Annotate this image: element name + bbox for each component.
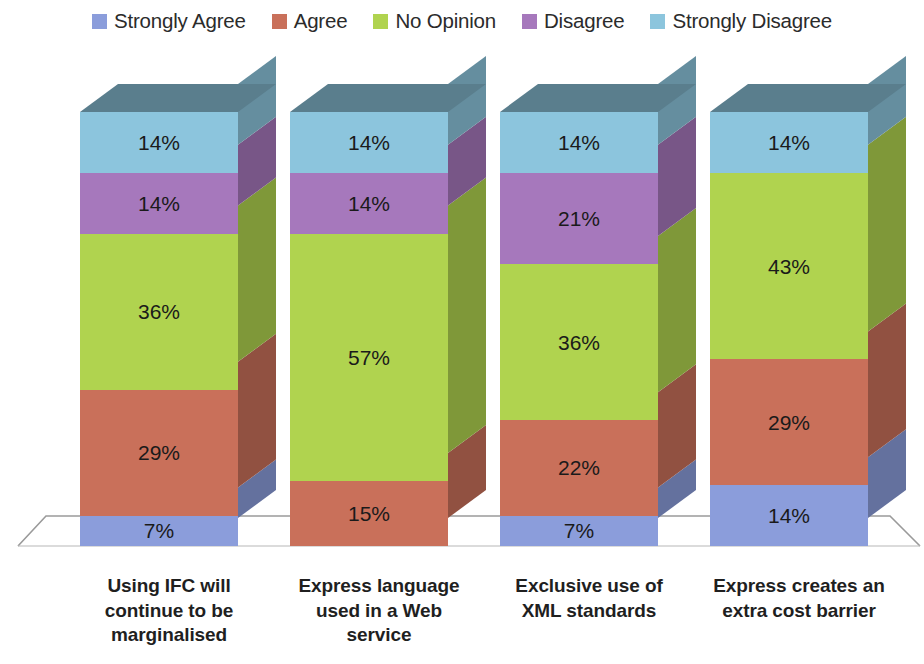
bar-segment-value-label: 14%	[348, 132, 390, 153]
bar-column[interactable]: 7%29%36%14%14%	[80, 112, 238, 546]
category-label-line: XML standards	[486, 599, 692, 624]
bar-segment-value-label: 29%	[138, 442, 180, 463]
category-label: Using IFC willcontinue to bemarginalised	[66, 574, 272, 648]
legend-item-label: Strongly Agree	[114, 11, 246, 32]
bar-segment-value-label: 7%	[144, 520, 174, 541]
bar-segment[interactable]: 14%	[290, 173, 448, 234]
bar-segment[interactable]: 14%	[500, 112, 658, 173]
bar-segment-value-label: 7%	[564, 520, 594, 541]
bar-segment-value-label: 43%	[768, 256, 810, 277]
category-label-line: service	[276, 623, 482, 648]
bar-segment-value-label: 14%	[348, 193, 390, 214]
category-label-line: Using IFC will	[66, 574, 272, 599]
bar-segment[interactable]: 43%	[710, 173, 868, 360]
legend-item-label: Disagree	[544, 11, 624, 32]
bar-segment[interactable]: 14%	[80, 112, 238, 173]
bar-side-face	[448, 84, 486, 546]
bar-front-face: 7%22%36%21%14%	[500, 112, 658, 546]
bar-column[interactable]: 15%57%14%14%	[290, 112, 448, 546]
bar-segment[interactable]: 15%	[290, 481, 448, 546]
bar-segment[interactable]: 7%	[80, 516, 238, 546]
bar-front-face: 14%29%43%14%	[710, 112, 868, 546]
bar-side-segment	[238, 178, 276, 362]
bar-segment[interactable]: 7%	[500, 516, 658, 546]
legend-item[interactable]: Disagree	[522, 11, 624, 32]
bar-side-face	[868, 84, 906, 546]
bar-segment-value-label: 14%	[138, 132, 180, 153]
bar-side-segment	[658, 208, 696, 392]
bars-layer: 7%29%36%14%14%15%57%14%14%7%22%36%21%14%…	[0, 46, 924, 560]
bar-segment[interactable]: 14%	[290, 112, 448, 173]
bar-segment[interactable]: 29%	[80, 390, 238, 516]
bar-top-face	[80, 84, 276, 112]
bar-segment[interactable]: 29%	[710, 359, 868, 485]
bar-segment[interactable]: 22%	[500, 420, 658, 515]
category-label: Express creates anextra cost barrier	[696, 574, 902, 623]
legend-item-label: No Opinion	[395, 11, 496, 32]
category-axis-labels: Using IFC willcontinue to bemarginalised…	[0, 566, 924, 664]
legend-swatch-icon	[522, 14, 537, 29]
bar-segment[interactable]: 21%	[500, 173, 658, 264]
legend-item-label: Strongly Disagree	[672, 11, 832, 32]
legend-item[interactable]: Strongly Agree	[92, 11, 246, 32]
bar-segment-value-label: 57%	[348, 347, 390, 368]
bar-segment[interactable]: 14%	[710, 485, 868, 546]
legend-item[interactable]: No Opinion	[373, 11, 496, 32]
bar-segment-value-label: 15%	[348, 503, 390, 524]
bar-top-face	[500, 84, 696, 112]
legend-swatch-icon	[92, 14, 107, 29]
bar-top-face	[290, 84, 486, 112]
legend-swatch-icon	[373, 14, 388, 29]
bar-side-segment	[868, 117, 906, 332]
bar-segment-value-label: 29%	[768, 412, 810, 433]
category-label-line: continue to be	[66, 599, 272, 624]
bar-column[interactable]: 14%29%43%14%	[710, 112, 868, 546]
plot-area: 7%29%36%14%14%15%57%14%14%7%22%36%21%14%…	[0, 46, 924, 560]
bar-segment-value-label: 14%	[558, 132, 600, 153]
legend-swatch-icon	[650, 14, 665, 29]
category-label: Exclusive use ofXML standards	[486, 574, 692, 623]
chart-container: Strongly AgreeAgreeNo OpinionDisagreeStr…	[0, 0, 924, 664]
bar-segment-value-label: 14%	[768, 505, 810, 526]
bar-side-face	[658, 84, 696, 546]
category-label-line: marginalised	[66, 623, 272, 648]
bar-segment[interactable]: 36%	[500, 264, 658, 420]
category-label-line: Exclusive use of	[486, 574, 692, 599]
legend-swatch-icon	[272, 14, 287, 29]
bar-front-face: 15%57%14%14%	[290, 112, 448, 546]
bar-top-face	[710, 84, 906, 112]
legend-item[interactable]: Strongly Disagree	[650, 11, 832, 32]
bar-segment[interactable]: 36%	[80, 234, 238, 390]
category-label-line: used in a Web	[276, 599, 482, 624]
bar-segment-value-label: 14%	[138, 193, 180, 214]
bar-segment-value-label: 14%	[768, 132, 810, 153]
bar-segment[interactable]: 14%	[710, 112, 868, 173]
bar-segment[interactable]: 14%	[80, 173, 238, 234]
bar-segment[interactable]: 57%	[290, 234, 448, 481]
category-label-line: Express language	[276, 574, 482, 599]
bar-segment-value-label: 36%	[558, 332, 600, 353]
legend-item-label: Agree	[294, 11, 348, 32]
bar-side-face	[238, 84, 276, 546]
category-label-line: extra cost barrier	[696, 599, 902, 624]
category-label: Express languageused in a Webservice	[276, 574, 482, 648]
legend-item[interactable]: Agree	[272, 11, 348, 32]
category-label-line: Express creates an	[696, 574, 902, 599]
bar-segment-value-label: 36%	[138, 301, 180, 322]
bar-column[interactable]: 7%22%36%21%14%	[500, 112, 658, 546]
bar-side-segment	[448, 178, 486, 453]
bar-segment-value-label: 21%	[558, 208, 600, 229]
bar-front-face: 7%29%36%14%14%	[80, 112, 238, 546]
bar-segment-value-label: 22%	[558, 457, 600, 478]
chart-legend: Strongly AgreeAgreeNo OpinionDisagreeStr…	[0, 4, 924, 38]
